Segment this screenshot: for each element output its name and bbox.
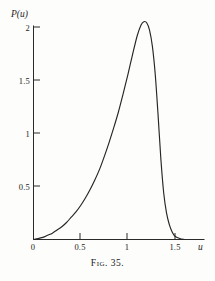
x-ticklabel-1-5: 1.5 [169,242,180,252]
caption-number: 35. [111,258,124,268]
caption-prefix: Fig. [91,258,108,268]
y-axis-label: P(u) [10,9,28,20]
y-ticklabel-1-5: 1.5 [19,76,30,86]
y-ticklabel-0-5: 0.5 [19,182,30,192]
plot-area: 2 1.5 1 0.5 0 0.5 1 1.5 P(u) u [0,0,215,281]
x-axis-label: u [198,242,203,252]
y-ticklabel-2: 2 [26,23,30,33]
x-ticklabel-0-5: 0.5 [74,242,85,252]
figure-caption: Fig. 35. [0,258,215,268]
x-ticklabel-1: 1 [125,242,129,252]
figure-container: 2 1.5 1 0.5 0 0.5 1 1.5 P(u) u Fig. 35. [0,0,215,281]
x-ticklabel-0: 0 [31,242,35,252]
y-ticklabel-1: 1 [26,129,30,139]
data-curve [34,21,185,239]
